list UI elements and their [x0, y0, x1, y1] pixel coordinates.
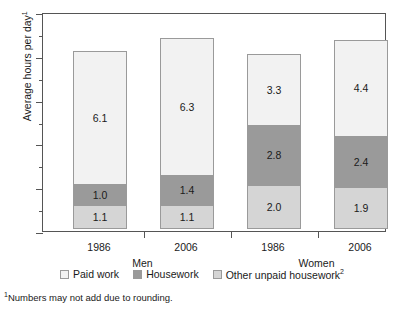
bar-segment[interactable]: 4.4 — [334, 40, 388, 136]
bar-segment[interactable]: 2.0 — [247, 185, 301, 229]
x-axis-category-label: 2006 — [151, 241, 221, 253]
legend-label: Housework — [146, 268, 199, 280]
x-axis-category-label: 2006 — [325, 241, 395, 253]
y-axis-label: Average hours per day1 — [21, 0, 34, 151]
y-axis-minor-tick — [39, 80, 43, 81]
stacked-bar[interactable]: 6.31.41.1 — [160, 38, 214, 231]
bar-segment[interactable]: 1.1 — [160, 205, 214, 229]
y-axis-tick — [36, 189, 43, 190]
bar-segment[interactable]: 1.9 — [334, 187, 388, 229]
bar-segment[interactable]: 1.1 — [73, 205, 127, 229]
footnote: 1Numbers may not add due to rounding. — [4, 291, 173, 303]
legend-swatch — [213, 270, 222, 279]
x-axis-tick — [231, 231, 232, 238]
bar-segment[interactable]: 3.3 — [247, 54, 301, 126]
bar-value-label: 1.9 — [354, 203, 369, 214]
legend-label: Paid work — [73, 268, 119, 280]
y-axis-label-superscript: 1 — [21, 11, 28, 15]
chart-figure: Average hours per day1 02468106.11.01.16… — [0, 0, 404, 309]
y-axis-tick — [36, 14, 43, 15]
x-axis-category-label: 1986 — [238, 241, 308, 253]
y-axis-tick — [36, 102, 43, 103]
legend-item[interactable]: Paid work — [60, 268, 119, 280]
stacked-bar[interactable]: 3.32.82.0 — [247, 54, 301, 231]
legend-swatch — [133, 270, 142, 279]
legend-label: Other unpaid housework2 — [226, 268, 344, 281]
y-axis-tick — [36, 233, 43, 234]
x-axis-tick — [144, 231, 145, 238]
bar-segment[interactable]: 2.4 — [334, 136, 388, 189]
stacked-bar[interactable]: 6.11.01.1 — [73, 51, 127, 231]
stacked-bar[interactable]: 4.42.41.9 — [334, 40, 388, 231]
bar-value-label: 4.4 — [354, 83, 369, 94]
legend-label-superscript: 2 — [340, 268, 344, 275]
y-axis-label-text: Average hours per day — [21, 15, 33, 121]
y-axis-minor-tick — [39, 211, 43, 212]
bar-value-label: 6.1 — [93, 113, 108, 124]
bar-value-label: 2.8 — [267, 150, 282, 161]
x-axis-category-label: 1986 — [64, 241, 134, 253]
bar-value-label: 3.3 — [267, 85, 282, 96]
y-axis-minor-tick — [39, 167, 43, 168]
y-axis-tick — [36, 145, 43, 146]
y-axis-minor-tick — [39, 124, 43, 125]
legend-swatch — [60, 270, 69, 279]
y-axis-minor-tick — [39, 36, 43, 37]
bar-value-label: 1.4 — [180, 185, 195, 196]
y-axis-tick — [36, 58, 43, 59]
bar-value-label: 1.1 — [180, 212, 195, 223]
bar-value-label: 2.0 — [267, 202, 282, 213]
bar-segment[interactable]: 6.1 — [73, 51, 127, 185]
legend-item[interactable]: Housework — [133, 268, 199, 280]
bar-value-label: 1.0 — [93, 190, 108, 201]
bar-segment[interactable]: 1.4 — [160, 175, 214, 206]
bar-value-label: 2.4 — [354, 157, 369, 168]
bar-segment[interactable]: 2.8 — [247, 125, 301, 186]
chart-legend: Paid workHouseworkOther unpaid housework… — [0, 268, 404, 281]
legend-item[interactable]: Other unpaid housework2 — [213, 268, 344, 281]
bar-value-label: 6.3 — [180, 102, 195, 113]
bar-value-label: 1.1 — [93, 212, 108, 223]
footnote-text: Numbers may not add due to rounding. — [8, 292, 173, 303]
bar-segment[interactable]: 6.3 — [160, 38, 214, 176]
plot-inner: 02468106.11.01.16.31.41.13.32.82.04.42.4… — [43, 14, 385, 231]
bar-segment[interactable]: 1.0 — [73, 184, 127, 206]
plot-area: 02468106.11.01.16.31.41.13.32.82.04.42.4… — [42, 13, 386, 232]
x-axis-tick — [318, 231, 319, 238]
